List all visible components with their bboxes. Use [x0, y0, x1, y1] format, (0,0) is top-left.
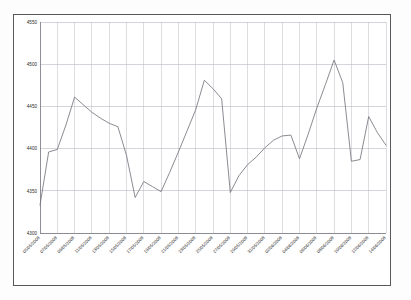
svg-text:4450: 4450	[27, 104, 38, 109]
svg-text:4350: 4350	[27, 189, 38, 194]
screenshot-root: 430043504400445045004550 05/05/200807/05…	[0, 0, 411, 300]
svg-text:4300: 4300	[27, 231, 38, 236]
chart-plot-area[interactable]: 430043504400445045004550 05/05/200807/05…	[14, 15, 390, 285]
svg-text:4500: 4500	[27, 62, 38, 67]
chart-frame: 430043504400445045004550 05/05/200807/05…	[13, 14, 391, 286]
vertical-gridlines	[40, 22, 386, 233]
svg-text:4400: 4400	[27, 146, 38, 151]
line-chart-svg[interactable]: 430043504400445045004550 05/05/200807/05…	[14, 15, 390, 285]
svg-text:4550: 4550	[27, 20, 38, 25]
